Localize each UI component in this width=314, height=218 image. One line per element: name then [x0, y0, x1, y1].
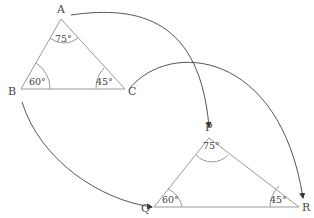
angle-label-q: 60°: [162, 195, 179, 205]
vertex-label-r: R: [302, 202, 310, 213]
diagram-canvas: [0, 0, 314, 218]
vertex-label-b: B: [8, 86, 16, 97]
vertex-label-c: C: [128, 86, 136, 97]
vertex-label-q: Q: [141, 203, 150, 214]
congruent-triangles-diagram: A B C 75° 60° 45° P Q R 75° 60° 45°: [0, 0, 314, 218]
angle-label-c: 45°: [96, 77, 113, 87]
angle-label-r: 45°: [270, 195, 287, 205]
angle-label-b: 60°: [29, 77, 46, 87]
angle-label-a: 75°: [55, 34, 72, 44]
vertex-label-p: P: [205, 122, 212, 133]
vertex-label-a: A: [57, 4, 65, 15]
angle-label-p: 75°: [203, 141, 220, 151]
